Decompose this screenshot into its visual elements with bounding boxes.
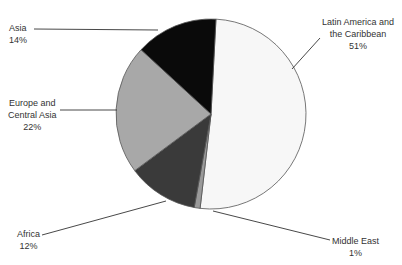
label-latam-line2: the Caribbean xyxy=(322,28,394,40)
label-asia: Asia 14% xyxy=(9,22,27,46)
label-asia-pct: 14% xyxy=(9,34,27,46)
label-europe-line2: Central Asia xyxy=(8,109,57,121)
leader-line-latin-america xyxy=(292,38,320,69)
leader-line-africa xyxy=(42,201,166,235)
leader-line-middle-east xyxy=(213,211,330,240)
label-middle-east: Middle East 1% xyxy=(332,235,379,259)
label-africa-pct: 12% xyxy=(17,240,40,252)
label-africa: Africa 12% xyxy=(17,228,40,252)
label-europe-line1: Europe and xyxy=(8,97,57,109)
label-europe-pct: 22% xyxy=(8,121,57,133)
pie-slice-latin-america-and-the-caribbean xyxy=(200,19,306,209)
label-europe: Europe and Central Asia 22% xyxy=(8,97,57,133)
label-latam-pct: 51% xyxy=(322,40,394,52)
label-mideast-name: Middle East xyxy=(332,235,379,247)
label-latam-line1: Latin America and xyxy=(322,16,394,28)
label-latin-america: Latin America and the Caribbean 51% xyxy=(322,16,394,52)
leader-line-asia xyxy=(34,29,158,30)
label-africa-name: Africa xyxy=(17,228,40,240)
label-mideast-pct: 1% xyxy=(332,247,379,259)
label-asia-name: Asia xyxy=(9,22,27,34)
